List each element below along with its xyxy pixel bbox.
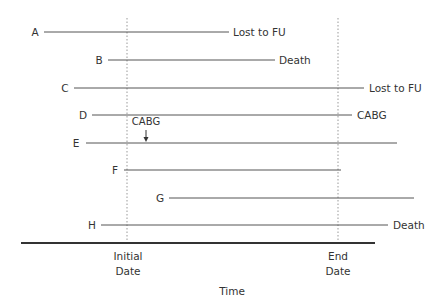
subject-label-h: H — [88, 219, 96, 231]
subject-label-d: D — [79, 109, 87, 121]
subject-label-b: B — [95, 54, 102, 66]
end-date-label-line2: Date — [325, 265, 350, 277]
initial-date-label-line2: Date — [115, 265, 140, 277]
outcome-label-a: Lost to FU — [233, 26, 286, 38]
outcome-label-d: CABG — [357, 109, 387, 121]
subject-label-g: G — [156, 192, 164, 204]
end-date-label-line1: End — [328, 250, 348, 262]
initial-date-label-line1: Initial — [113, 250, 142, 262]
subject-label-a: A — [31, 26, 38, 38]
outcome-label-b: Death — [279, 54, 311, 66]
follow-up-timeline-diagram: A B C D E F G H Lost to FU Death Lost to… — [0, 0, 443, 308]
time-axis-label: Time — [219, 285, 245, 297]
subject-label-e: E — [73, 137, 80, 149]
subject-label-c: C — [61, 82, 68, 94]
cabg-annotation-label: CABG — [132, 116, 160, 128]
outcome-label-h: Death — [393, 219, 425, 231]
subject-label-f: F — [112, 164, 118, 176]
arrowhead-icon — [144, 137, 149, 142]
outcome-label-c: Lost to FU — [369, 82, 422, 94]
diagram-lines — [0, 0, 443, 308]
